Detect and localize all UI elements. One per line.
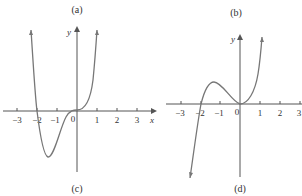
right-graph: −3 −2 −1 0 1 2 3 y [166,34,302,178]
panel-label-b: (b) [230,7,242,19]
panel-label-d: (d) [234,183,246,195]
panel-label-a: (a) [71,4,82,16]
left-tick-label: 3 [135,115,140,125]
right-origin-label: 0 [235,107,240,117]
left-origin-label: 0 [71,114,76,124]
right-tick-label: −3 [175,108,185,118]
right-tick-label: 3 [297,108,302,118]
left-graph: −3 −2 −1 0 1 2 3 x y [3,27,154,172]
right-curve [190,37,262,178]
right-curve-arrow [260,37,264,42]
panel-label-c: (c) [71,183,82,195]
left-y-label: y [66,27,71,37]
left-curve-arrow [95,30,99,35]
left-tick-label: −3 [12,115,22,125]
figure-canvas: (a) (b) (c) (d) −3 −2 −1 0 1 2 3 x y [0,0,302,196]
left-x-label: x [149,115,154,125]
left-tick-label: 1 [95,115,100,125]
left-curve [31,30,97,157]
right-tick-label: 2 [278,108,283,118]
right-tick-label: 1 [258,108,263,118]
right-tick-label: −1 [214,108,224,118]
right-y-label: y [230,34,235,44]
left-tick-label: −2 [32,115,42,125]
left-tick-label: −1 [50,115,60,125]
left-tick-label: 2 [115,115,120,125]
left-curve-arrow [29,30,33,35]
